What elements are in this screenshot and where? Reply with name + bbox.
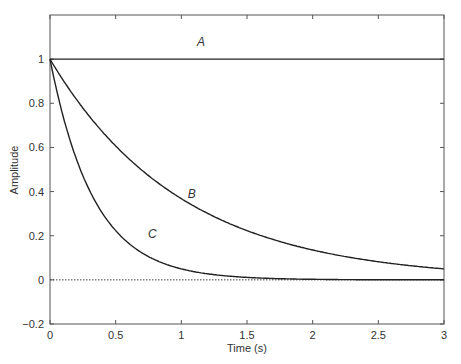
y-tick-label: 1 (38, 53, 44, 65)
curve-label-b: B (188, 187, 196, 201)
x-tick-label: 2 (310, 329, 316, 341)
x-tick-label: 3 (441, 329, 447, 341)
y-tick-label: 0.6 (29, 141, 44, 153)
x-tick-label: 1 (178, 329, 184, 341)
amplitude-time-chart: 00.511.522.53−0.200.20.40.60.81ABC Time … (0, 0, 461, 364)
curve-label-a: A (196, 35, 205, 49)
y-tick-label: −0.2 (22, 318, 44, 330)
curve-label-c: C (148, 227, 157, 241)
x-axis-label: Time (s) (227, 342, 267, 354)
y-tick-label: 0.8 (29, 97, 44, 109)
curve-b (50, 59, 444, 269)
y-tick-label: 0.4 (29, 186, 44, 198)
y-tick-label: 0 (38, 274, 44, 286)
y-tick-label: 0.2 (29, 230, 44, 242)
curve-c (50, 59, 444, 280)
x-tick-label: 1.5 (239, 329, 254, 341)
x-tick-label: 0 (47, 329, 53, 341)
y-axis-label: Amplitude (8, 146, 20, 195)
x-tick-label: 2.5 (371, 329, 386, 341)
plot-area: 00.511.522.53−0.200.20.40.60.81ABC (22, 15, 447, 341)
x-tick-label: 0.5 (108, 329, 123, 341)
